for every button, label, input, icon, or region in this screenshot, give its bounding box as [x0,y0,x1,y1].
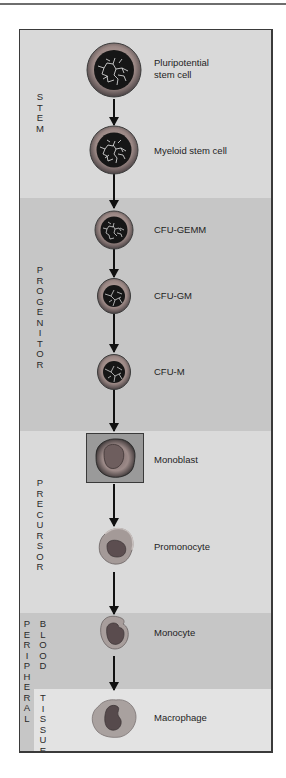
cell-cfu-m [97,354,131,390]
label-monoblast: Monoblast [154,454,198,466]
stem-cell-icon [86,42,142,98]
label-monocyte: Monocyte [154,627,195,639]
label-myeloid-stem-cell: Myeloid stem cell [154,145,227,157]
arrow-monoblast-to-promonocyte [113,484,115,526]
label-pluripotential-stem-cell: Pluripotential stem cell [154,57,209,81]
stage-label-tissue: TISSUE [37,693,49,753]
stage-band-stem [20,30,271,198]
promonocyte-cell-icon [97,526,135,566]
label-cfu-m: CFU-M [154,366,185,378]
stage-label-stem: STEM [34,92,46,134]
cell-cfu-gemm [94,210,134,250]
arrow-cfu-gm-to-cfu-m [113,314,115,352]
stage-band-blood [20,613,271,689]
stage-label-blood: BLOOD [37,619,49,672]
cell-cfu-gm [97,278,131,314]
arrow-pluripotential-to-myeloid [113,99,115,125]
arrow-cfu-gemm-to-cfu-gm [113,249,115,277]
cell-macrophage [90,697,138,739]
cfu-m-cell-icon [97,354,131,390]
cell-monoblast [86,433,144,483]
label-cfu-gm: CFU-GM [154,290,192,302]
stage-label-progenitor: PROGENITOR [34,265,46,370]
myeloid-cell-icon [89,125,139,175]
stage-band-progenitor [20,198,271,431]
macrophage-cell-icon [90,697,138,739]
cfu-gm-cell-icon [97,278,131,314]
monocyte-cell-icon [99,615,131,651]
cell-myeloid-stem-cell [89,125,139,175]
arrow-promonocyte-to-monocyte [113,572,115,614]
cell-monocyte [99,615,131,651]
cell-pluripotential-stem-cell [86,42,142,98]
cfu-gemm-cell-icon [94,210,134,250]
stage-band-tissue [20,689,271,751]
diagram-frame: STEM PROGENITOR PRECURSOR PERIPHERAL BLO… [19,29,273,753]
stage-band-precursor [20,431,271,613]
label-promonocyte: Promonocyte [154,541,210,553]
monoblast-cell-icon [86,433,144,483]
label-macrophage: Macrophage [154,712,207,724]
stage-label-precursor: PRECURSOR [34,478,46,573]
stage-label-peripheral: PERIPHERAL [21,619,33,724]
label-cfu-gemm: CFU-GEMM [154,224,206,236]
page-top-rule [0,3,286,5]
arrow-cfu-m-to-monoblast [113,389,115,431]
arrow-monocyte-to-macrophage [113,656,115,690]
cell-promonocyte [97,526,135,566]
